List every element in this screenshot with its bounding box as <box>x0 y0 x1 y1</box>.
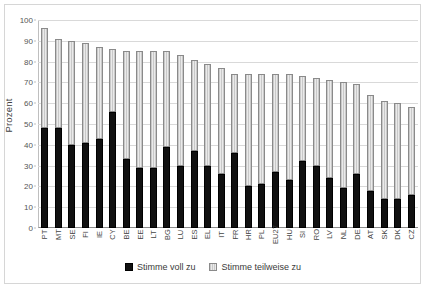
bar-segment-stimme-voll-zu[interactable] <box>150 168 157 228</box>
bar-segment-stimme-teilweise-zu[interactable] <box>299 76 306 161</box>
x-axis-tick-label-text: RO <box>312 229 321 240</box>
bar-segment-stimme-teilweise-zu[interactable] <box>313 78 320 165</box>
bar-segment-stimme-teilweise-zu[interactable] <box>340 82 347 188</box>
bar-segment-stimme-teilweise-zu[interactable] <box>150 51 157 167</box>
bar-segment-stimme-teilweise-zu[interactable] <box>136 51 143 167</box>
bar-segment-stimme-voll-zu[interactable] <box>218 174 225 228</box>
bar-group[interactable] <box>299 20 306 228</box>
bar-segment-stimme-voll-zu[interactable] <box>136 168 143 228</box>
bar-group[interactable] <box>408 20 415 228</box>
bar-group[interactable] <box>286 20 293 228</box>
bar-segment-stimme-voll-zu[interactable] <box>96 139 103 228</box>
x-axis-tick-label-text: SI <box>298 231 307 238</box>
bar-segment-stimme-teilweise-zu[interactable] <box>123 51 130 159</box>
x-axis-tick-label: BE <box>119 230 133 256</box>
bar-segment-stimme-voll-zu[interactable] <box>41 128 48 228</box>
legend-item[interactable]: Stimme teilweise zu <box>209 262 301 272</box>
bar-segment-stimme-teilweise-zu[interactable] <box>286 74 293 180</box>
bar-segment-stimme-voll-zu[interactable] <box>340 188 347 228</box>
x-axis-tick-label-text: EL <box>203 230 212 239</box>
bar-segment-stimme-teilweise-zu[interactable] <box>218 68 225 174</box>
bar-segment-stimme-teilweise-zu[interactable] <box>68 41 75 145</box>
bar-segment-stimme-voll-zu[interactable] <box>245 186 252 228</box>
bar-segment-stimme-voll-zu[interactable] <box>191 151 198 228</box>
bar-group[interactable] <box>353 20 360 228</box>
bar-group[interactable] <box>191 20 198 228</box>
bar-segment-stimme-teilweise-zu[interactable] <box>96 47 103 139</box>
bar-segment-stimme-voll-zu[interactable] <box>367 191 374 228</box>
bar-group[interactable] <box>150 20 157 228</box>
bar-segment-stimme-voll-zu[interactable] <box>353 174 360 228</box>
bar-group[interactable] <box>123 20 130 228</box>
bar-segment-stimme-voll-zu[interactable] <box>109 112 116 228</box>
x-axis-tick-label: MT <box>52 230 66 256</box>
bar-segment-stimme-voll-zu[interactable] <box>177 166 184 228</box>
y-axis-tick-mark <box>34 40 36 41</box>
bar-group[interactable] <box>381 20 388 228</box>
bar-group[interactable] <box>231 20 238 228</box>
bar-segment-stimme-teilweise-zu[interactable] <box>163 51 170 147</box>
bar-segment-stimme-voll-zu[interactable] <box>163 147 170 228</box>
bar-segment-stimme-voll-zu[interactable] <box>394 199 401 228</box>
bar-group[interactable] <box>272 20 279 228</box>
bar-segment-stimme-voll-zu[interactable] <box>286 180 293 228</box>
bar-group[interactable] <box>340 20 347 228</box>
bar-segment-stimme-voll-zu[interactable] <box>231 153 238 228</box>
bar-segment-stimme-teilweise-zu[interactable] <box>258 74 265 184</box>
bar-segment-stimme-voll-zu[interactable] <box>258 184 265 228</box>
bar-segment-stimme-voll-zu[interactable] <box>272 172 279 228</box>
bar-segment-stimme-teilweise-zu[interactable] <box>177 55 184 165</box>
bar-group[interactable] <box>245 20 252 228</box>
bar-group[interactable] <box>109 20 116 228</box>
y-axis-tick-mark <box>34 144 36 145</box>
bar-group[interactable] <box>394 20 401 228</box>
legend-item-label: Stimme voll zu <box>137 262 196 272</box>
bar-segment-stimme-voll-zu[interactable] <box>68 145 75 228</box>
bar-segment-stimme-teilweise-zu[interactable] <box>353 84 360 173</box>
bar-segment-stimme-teilweise-zu[interactable] <box>82 43 89 143</box>
x-axis-tick-label-text: CZ <box>407 230 416 240</box>
bar-group[interactable] <box>258 20 265 228</box>
bar-group[interactable] <box>68 20 75 228</box>
bar-segment-stimme-voll-zu[interactable] <box>82 143 89 228</box>
y-axis-tick-mark <box>34 124 36 125</box>
bar-group[interactable] <box>163 20 170 228</box>
bar-segment-stimme-teilweise-zu[interactable] <box>326 80 333 178</box>
bar-group[interactable] <box>82 20 89 228</box>
bar-segment-stimme-teilweise-zu[interactable] <box>41 28 48 128</box>
bar-group[interactable] <box>218 20 225 228</box>
bar-group[interactable] <box>55 20 62 228</box>
bar-group[interactable] <box>367 20 374 228</box>
bar-segment-stimme-teilweise-zu[interactable] <box>381 101 388 199</box>
bar-segment-stimme-teilweise-zu[interactable] <box>408 107 415 194</box>
legend-item[interactable]: Stimme voll zu <box>125 262 196 272</box>
bar-segment-stimme-voll-zu[interactable] <box>123 159 130 228</box>
x-axis-tick-label-text: NL <box>339 230 348 240</box>
bar-segment-stimme-voll-zu[interactable] <box>55 128 62 228</box>
bar-segment-stimme-teilweise-zu[interactable] <box>204 64 211 166</box>
bar-segment-stimme-voll-zu[interactable] <box>299 161 306 228</box>
bar-group[interactable] <box>313 20 320 228</box>
bar-segment-stimme-teilweise-zu[interactable] <box>394 103 401 199</box>
bar-group[interactable] <box>96 20 103 228</box>
bar-group[interactable] <box>177 20 184 228</box>
bar-segment-stimme-teilweise-zu[interactable] <box>272 74 279 172</box>
bar-group[interactable] <box>41 20 48 228</box>
bar-segment-stimme-voll-zu[interactable] <box>313 166 320 228</box>
y-axis-title-label: Prozent <box>3 98 14 132</box>
bar-segment-stimme-teilweise-zu[interactable] <box>55 39 62 128</box>
bar-segment-stimme-teilweise-zu[interactable] <box>245 74 252 186</box>
bar-segment-stimme-teilweise-zu[interactable] <box>109 49 116 111</box>
bar-segment-stimme-voll-zu[interactable] <box>204 166 211 228</box>
bar-segment-stimme-teilweise-zu[interactable] <box>191 60 198 152</box>
bar-segment-stimme-voll-zu[interactable] <box>326 178 333 228</box>
bar-group[interactable] <box>136 20 143 228</box>
x-axis-tick-label: CY <box>106 230 120 256</box>
bar-segment-stimme-voll-zu[interactable] <box>381 199 388 228</box>
bar-group[interactable] <box>326 20 333 228</box>
y-axis-tick-mark <box>34 82 36 83</box>
bar-segment-stimme-teilweise-zu[interactable] <box>231 74 238 153</box>
bar-group[interactable] <box>204 20 211 228</box>
bar-segment-stimme-teilweise-zu[interactable] <box>367 95 374 191</box>
bar-segment-stimme-voll-zu[interactable] <box>408 195 415 228</box>
